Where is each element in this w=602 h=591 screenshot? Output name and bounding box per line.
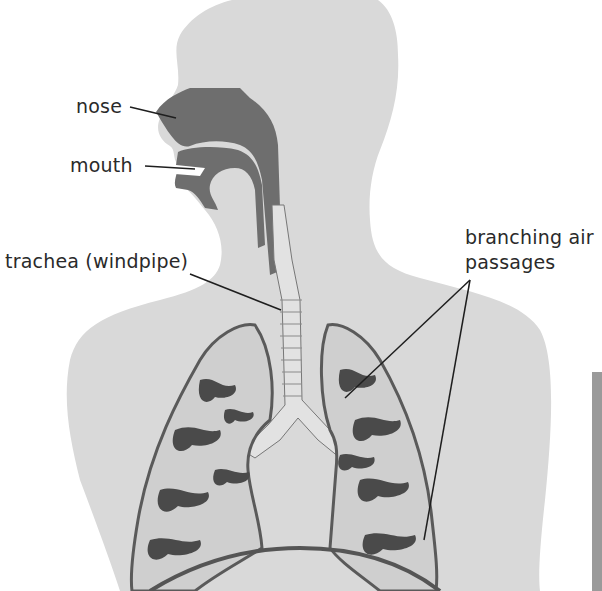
respiratory-diagram — [0, 0, 602, 591]
label-branching-line2: passages — [465, 250, 555, 274]
label-trachea: trachea (windpipe) — [5, 249, 188, 273]
edge-artifact — [592, 372, 602, 591]
label-branching-line1: branching air — [465, 225, 594, 249]
body-silhouette — [67, 0, 551, 591]
label-nose: nose — [76, 94, 122, 118]
label-mouth: mouth — [70, 153, 133, 177]
